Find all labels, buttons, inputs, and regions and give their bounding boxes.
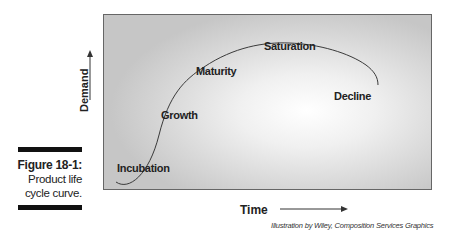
- stage-label-decline: Decline: [334, 90, 371, 102]
- stage-label-saturation: Saturation: [264, 40, 315, 52]
- figure-number: Figure 18-1:: [14, 158, 82, 172]
- caption-bottom-bar: [18, 205, 82, 210]
- stage-label-growth: Growth: [161, 109, 198, 121]
- x-axis-arrow-icon: [280, 205, 348, 213]
- figure-caption: Figure 18-1: Product life cycle curve.: [14, 147, 82, 210]
- x-axis-label: Time: [240, 203, 268, 217]
- illustration-credit: Illustration by Wiley, Composition Servi…: [271, 221, 433, 230]
- y-axis-arrow-icon: [86, 50, 94, 100]
- chart-area: Incubation Growth Maturity Saturation De…: [103, 14, 432, 190]
- figure-caption-text: Product life cycle curve.: [14, 172, 82, 200]
- stage-label-maturity: Maturity: [196, 65, 236, 77]
- stage-label-incubation: Incubation: [117, 162, 170, 174]
- caption-top-bar: [18, 147, 82, 152]
